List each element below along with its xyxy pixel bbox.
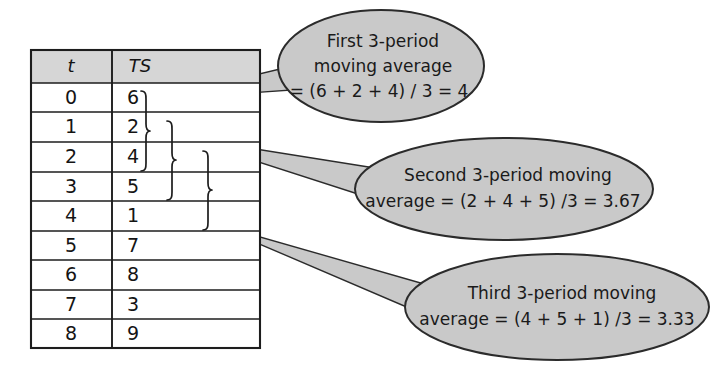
callout-third-line-1: Third 3-period moving — [467, 283, 657, 303]
callout-second[interactable]: Second 3-period moving average = (2 + 4 … — [355, 138, 653, 240]
table-header-t: t — [67, 55, 75, 76]
cell-ts-0: 6 — [127, 86, 139, 108]
callout-first-line-2: moving average — [314, 56, 452, 76]
cell-t-1: 1 — [65, 115, 77, 137]
figure-canvas: t TS 0 6 1 2 2 4 3 5 4 1 5 7 6 8 7 3 — [0, 0, 725, 373]
callout-third[interactable]: Third 3-period moving average = (4 + 5 +… — [405, 254, 709, 360]
cell-t-4: 4 — [65, 204, 77, 226]
cell-ts-1: 2 — [127, 115, 139, 137]
callout-second-line-1: Second 3-period moving — [404, 165, 612, 185]
moving-average-figure: t TS 0 6 1 2 2 4 3 5 4 1 5 7 6 8 7 3 — [0, 0, 725, 373]
cell-ts-5: 7 — [127, 234, 139, 256]
callout-third-line-2: average = (4 + 5 + 1) /3 = 3.33 — [419, 309, 694, 329]
cell-ts-4: 1 — [127, 204, 139, 226]
cell-t-6: 6 — [65, 263, 77, 285]
cell-t-2: 2 — [65, 145, 77, 167]
callout-third-ellipse — [405, 254, 709, 360]
cell-ts-3: 5 — [127, 175, 139, 197]
table-header-ts: TS — [129, 55, 151, 76]
callout-first-line-3: = (6 + 2 + 4) / 3 = 4 — [290, 81, 469, 101]
callout-first[interactable]: First 3-period moving average = (6 + 2 +… — [278, 10, 484, 122]
cell-t-5: 5 — [65, 234, 77, 256]
cell-t-3: 3 — [65, 175, 77, 197]
cell-ts-6: 8 — [127, 263, 139, 285]
callout-second-ellipse — [355, 138, 653, 240]
cell-t-0: 0 — [65, 86, 77, 108]
cell-ts-2: 4 — [127, 145, 139, 167]
cell-t-7: 7 — [65, 293, 77, 315]
callout-first-line-1: First 3-period — [327, 31, 439, 51]
cell-ts-8: 9 — [127, 322, 139, 344]
cell-ts-7: 3 — [127, 293, 139, 315]
callout-second-line-2: average = (2 + 4 + 5) /3 = 3.67 — [365, 191, 640, 211]
cell-t-8: 8 — [65, 322, 77, 344]
